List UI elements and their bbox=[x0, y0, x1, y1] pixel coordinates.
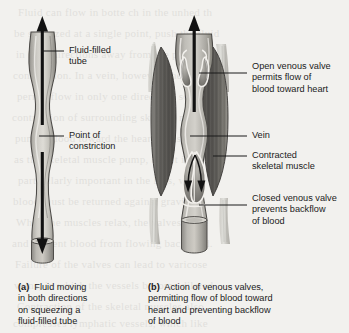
label-fluid-filled-tube: Fluid-filled tube bbox=[69, 45, 111, 68]
panel-a-artwork bbox=[29, 16, 64, 263]
caption-panel-a: (a) Fluid moving in both directions on s… bbox=[18, 270, 143, 328]
panel-b-artwork bbox=[148, 15, 247, 253]
label-open-venous-valve: Open venous valve permits flow of blood … bbox=[252, 61, 331, 95]
label-closed-venous-valve: Closed venous valve prevents backflow of… bbox=[252, 193, 337, 227]
caption-panel-b: (b) Action of venous valves, permitting … bbox=[148, 270, 348, 328]
label-point-of-constriction: Point of constriction bbox=[69, 130, 115, 153]
label-contracted-skeletal-muscle: Contracted skeletal muscle bbox=[252, 150, 315, 173]
vein-base-collar bbox=[181, 217, 207, 253]
label-vein: Vein bbox=[252, 130, 270, 141]
caption-panel-b-tag: (b) bbox=[148, 282, 160, 292]
caption-panel-b-body: Action of venous valves, permitting flow… bbox=[148, 282, 273, 327]
caption-panel-a-tag: (a) bbox=[18, 282, 29, 292]
